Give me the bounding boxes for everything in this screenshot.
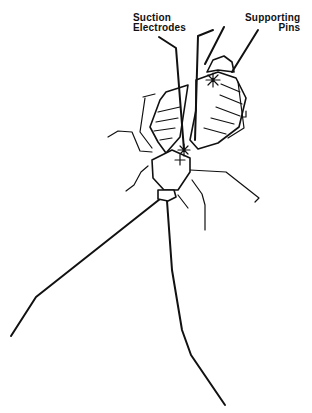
wing-frame-left	[140, 98, 152, 148]
antenna-left	[11, 199, 160, 336]
antenna-right	[167, 201, 225, 405]
supporting-pin-2	[232, 30, 258, 72]
head	[158, 190, 176, 201]
wing-tip	[207, 56, 234, 72]
insect-diagram	[0, 0, 312, 413]
